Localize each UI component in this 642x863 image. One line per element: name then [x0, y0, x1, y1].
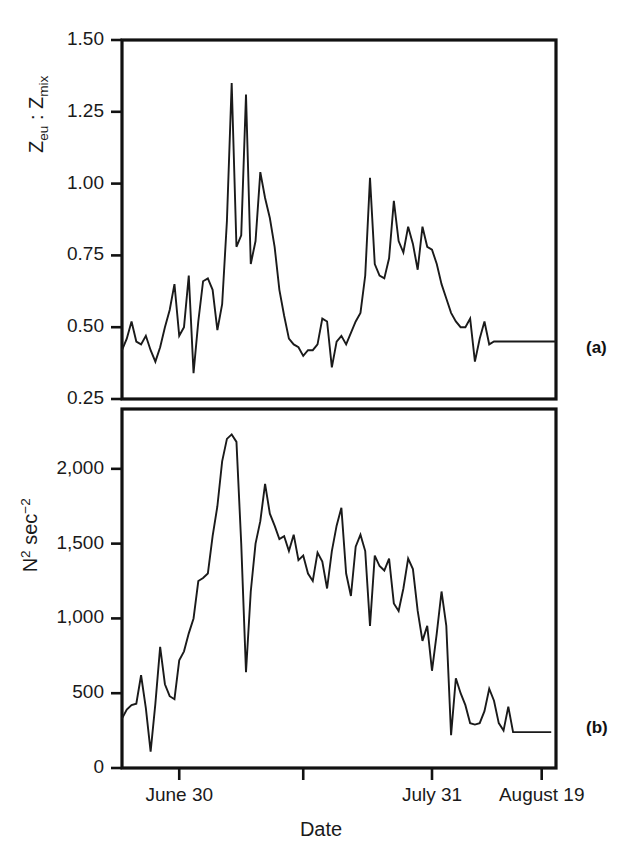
panel-b-data-line: [122, 434, 551, 751]
panel-b-y-tick-label: 0: [0, 756, 104, 778]
panel-a: [111, 40, 556, 399]
x-tick-label: June 30: [94, 784, 264, 806]
panel-a-y-tick-label: 0.75: [0, 243, 104, 265]
x-tick-label: August 19: [457, 784, 627, 806]
panel-a-frame: [122, 40, 556, 399]
plot-svg: [0, 0, 642, 863]
figure-container: Zeu : Zmix N2 sec−2 (a) (b) Date 1.501.2…: [0, 0, 642, 863]
panel-a-y-tick-label: 1.25: [0, 100, 104, 122]
panel-b: [111, 409, 556, 780]
panel-a-data-line: [122, 83, 556, 373]
panel-a-y-tick-label: 1.00: [0, 172, 104, 194]
panel-b-tag: (b): [586, 718, 608, 738]
panel-b-y-tick-label: 1,000: [0, 606, 104, 628]
panel-a-y-tick-label: 0.50: [0, 315, 104, 337]
panel-a-y-tick-label: 1.50: [0, 28, 104, 50]
panel-b-y-tick-label: 2,000: [0, 457, 104, 479]
x-axis-title: Date: [0, 818, 642, 841]
panel-a-tag: (a): [586, 338, 607, 358]
panel-b-y-tick-label: 500: [0, 681, 104, 703]
panel-a-y-tick-label: 0.25: [0, 387, 104, 409]
panel-b-frame: [122, 409, 556, 768]
panel-b-y-tick-label: 1,500: [0, 532, 104, 554]
